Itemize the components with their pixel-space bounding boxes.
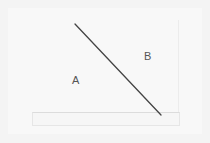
diagonal-line — [0, 0, 210, 143]
region-label-a: A — [72, 75, 79, 86]
region-label-b: B — [144, 51, 151, 62]
